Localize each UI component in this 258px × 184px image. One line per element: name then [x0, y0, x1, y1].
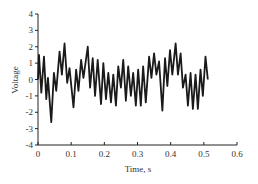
x-axis: 00.10.20.30.40.50.6 [36, 142, 243, 159]
voltage-time-chart: 43210-1-2-3-4 00.10.20.30.40.50.6 Voltag… [0, 0, 258, 184]
y-tick-label: 4 [29, 9, 34, 19]
y-tick-label: 1 [29, 58, 34, 68]
y-tick-label: -3 [26, 124, 34, 134]
y-tick-label: -4 [26, 140, 34, 150]
x-tick-label: 0.5 [198, 149, 210, 159]
x-tick-label: 0.4 [165, 149, 177, 159]
y-tick-label: 2 [29, 42, 34, 52]
y-tick-label: 0 [29, 75, 34, 85]
y-tick-label: -1 [26, 91, 34, 101]
y-tick-label: -2 [26, 107, 34, 117]
y-axis-label: Voltage [10, 66, 20, 93]
x-axis-label: Time, s [125, 164, 152, 174]
x-tick-label: 0.2 [99, 149, 110, 159]
y-axis: 43210-1-2-3-4 [26, 9, 39, 150]
y-tick-label: 3 [29, 25, 34, 35]
voltage-series-line [38, 43, 208, 122]
x-tick-label: 0.1 [66, 149, 77, 159]
x-tick-label: 0.6 [231, 149, 243, 159]
x-tick-label: 0 [36, 149, 41, 159]
x-tick-label: 0.3 [132, 149, 144, 159]
